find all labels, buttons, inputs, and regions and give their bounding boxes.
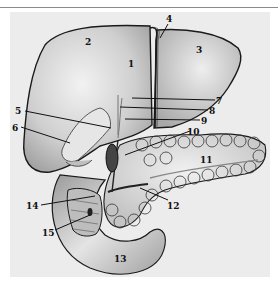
label-11: 11 (200, 155, 213, 165)
label-13: 13 (114, 254, 127, 264)
label-5: 5 (15, 106, 21, 116)
label-14: 14 (26, 201, 39, 211)
label-2: 2 (85, 37, 91, 47)
anatomy-diagram: 1 2 3 4 5 6 7 8 9 10 11 12 13 14 15 (0, 0, 278, 283)
label-3: 3 (196, 45, 202, 55)
label-8: 8 (209, 106, 215, 116)
label-15: 15 (42, 228, 55, 238)
portal-vein (106, 144, 118, 172)
pancreas (104, 134, 266, 228)
label-4: 4 (166, 14, 172, 24)
label-10: 10 (187, 127, 200, 137)
label-1: 1 (128, 59, 134, 69)
papilla (88, 208, 93, 216)
label-7: 7 (216, 96, 222, 106)
label-12: 12 (167, 201, 180, 211)
label-9: 9 (201, 116, 207, 126)
label-6: 6 (12, 123, 18, 133)
